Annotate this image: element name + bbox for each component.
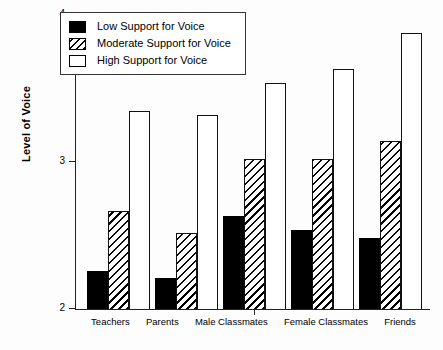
legend-label: Moderate Support for Voice — [97, 37, 231, 50]
bar — [155, 278, 176, 309]
bar — [401, 33, 422, 309]
x-axis-tick-label: Friends — [384, 316, 416, 336]
x-axis-tick — [254, 309, 255, 315]
legend-swatch-icon — [69, 21, 86, 33]
x-axis-tick-labels: TeachersParentsMale ClassmatesFemale Cla… — [75, 316, 430, 336]
x-axis-tick-label: Teachers — [91, 316, 130, 336]
bar-group — [359, 16, 422, 309]
bar — [87, 271, 108, 309]
bar — [265, 83, 286, 309]
legend-swatch-icon — [69, 55, 86, 67]
legend-label: High Support for Voice — [97, 54, 207, 67]
bar — [244, 159, 265, 309]
bar — [108, 211, 129, 309]
legend-label: Low Support for Voice — [97, 20, 205, 33]
y-axis-tick: 2 — [69, 308, 76, 309]
legend-swatch-icon — [69, 38, 86, 50]
bar — [129, 111, 150, 309]
y-axis-tick-label: 3 — [59, 155, 65, 167]
bar — [176, 233, 197, 309]
bar — [380, 141, 401, 309]
legend-item: Low Support for Voice — [69, 18, 231, 35]
x-axis-tick-label: Parents — [146, 316, 179, 336]
y-axis-label: Level of Voice — [20, 54, 32, 194]
bar — [223, 216, 244, 309]
bar — [197, 115, 218, 309]
y-axis-tick-label: 2 — [59, 302, 65, 314]
x-axis-tick-label: Female Classmates — [284, 316, 368, 336]
bar — [333, 69, 354, 309]
x-axis-tick-label: Male Classmates — [195, 316, 268, 336]
bar-group — [291, 16, 354, 309]
legend-item: Moderate Support for Voice — [69, 35, 231, 52]
bar — [359, 238, 380, 309]
bar-chart: Level of Voice 234 TeachersParentsMale C… — [0, 0, 443, 350]
y-axis-tick: 3 — [69, 161, 76, 162]
chart-legend: Low Support for VoiceModerate Support fo… — [60, 12, 246, 75]
bar — [312, 159, 333, 309]
bar — [291, 230, 312, 309]
legend-item: High Support for Voice — [69, 52, 231, 69]
